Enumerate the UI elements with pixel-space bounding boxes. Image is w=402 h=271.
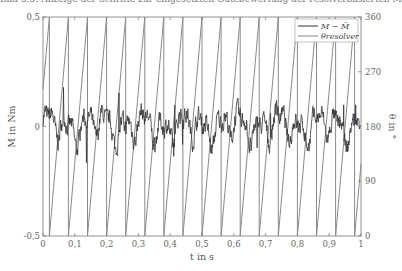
x-tick-label: 0,8 <box>291 239 305 249</box>
y-left-tick-label: 0 <box>35 122 40 132</box>
x-tick-label: 0,9 <box>322 239 336 249</box>
legend-item-label: M − M̄ <box>320 22 350 31</box>
y-right-tick-label: 90 <box>365 176 376 186</box>
y-left-tick-label: -0,5 <box>24 231 40 241</box>
y-right-tick-label: 0 <box>365 231 370 241</box>
x-axis-label: t in s <box>190 251 214 262</box>
x-tick-label: 0,5 <box>195 239 209 249</box>
y-left-axis-label: M in Nm <box>6 105 17 147</box>
x-tick-label: 0,6 <box>227 239 241 249</box>
x-tick-label: 0,2 <box>100 239 114 249</box>
x-tick-label: 1 <box>358 239 363 249</box>
x-tick-label: 0 <box>40 239 45 249</box>
x-tick-label: 0,3 <box>132 239 146 249</box>
chart: 00,10,20,30,40,50,60,70,80,91-0,500,5090… <box>0 0 402 271</box>
y-right-tick-label: 180 <box>365 122 381 132</box>
y-right-tick-label: 360 <box>365 12 381 22</box>
x-tick-label: 0,7 <box>259 239 273 249</box>
x-tick-label: 0,4 <box>163 239 177 249</box>
x-tick-label: 0,1 <box>68 239 82 249</box>
y-right-axis-label: θ in ° <box>387 114 398 140</box>
y-right-tick-label: 270 <box>365 67 381 77</box>
legend: M − M̄θresolver <box>295 19 360 42</box>
legend-item-label: θresolver <box>321 32 360 41</box>
y-left-tick-label: 0,5 <box>26 12 40 22</box>
